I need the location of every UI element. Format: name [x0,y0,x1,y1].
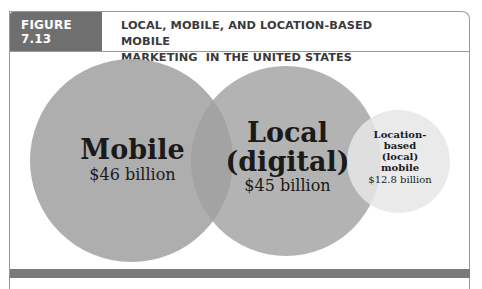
mobile-name: Mobile [60,135,205,165]
local-value: $45 billion [215,176,360,196]
title-divider [10,51,470,52]
figure-title-line-1: LOCAL, MOBILE, AND LOCATION-BASED MOBILE [121,18,421,50]
location-name-line-1: Location- [355,129,445,140]
mobile-value: $46 billion [60,165,205,185]
figure-title-line-2: MARKETING IN THE UNITED STATES [121,50,421,66]
figure-number: FIGURE 7.13 [10,12,102,52]
bottom-rule [10,269,470,278]
local-digital-label: Local (digital) $45 billion [215,118,360,196]
location-name-line-2: based [355,140,445,151]
local-name-line-1: Local [215,118,360,147]
location-value: $12.8 billion [355,173,445,187]
figure-title: LOCAL, MOBILE, AND LOCATION-BASED MOBILE… [121,18,421,66]
mobile-label: Mobile $46 billion [60,135,205,185]
location-based-label: Location- based (local) mobile $12.8 bil… [355,129,445,187]
location-name-line-4: mobile [355,162,445,173]
location-name-line-3: (local) [355,151,445,162]
local-name-line-2: (digital) [215,147,360,176]
